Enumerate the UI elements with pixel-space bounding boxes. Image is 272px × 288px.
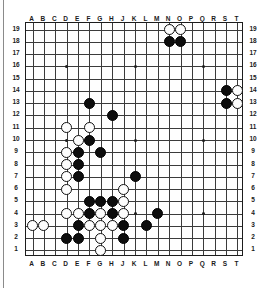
- row-label-right-19: 19: [247, 25, 259, 33]
- white-stone[interactable]: [107, 220, 118, 231]
- white-stone[interactable]: [61, 208, 72, 219]
- row-label-right-2: 2: [247, 233, 259, 241]
- column-label-top-L: L: [139, 15, 151, 23]
- grid-line-horizontal: [26, 165, 242, 166]
- grid-line-vertical: [215, 23, 216, 255]
- black-stone[interactable]: [107, 196, 118, 207]
- row-label-left-5: 5: [10, 196, 22, 204]
- row-label-right-11: 11: [247, 123, 259, 131]
- black-stone[interactable]: [73, 220, 84, 231]
- white-stone[interactable]: [118, 208, 129, 219]
- grid-line-horizontal: [26, 128, 242, 129]
- white-stone[interactable]: [232, 85, 243, 96]
- black-stone[interactable]: [221, 98, 232, 109]
- white-stone[interactable]: [95, 245, 106, 256]
- row-label-left-1: 1: [10, 245, 22, 253]
- black-stone[interactable]: [118, 233, 129, 244]
- column-label-top-N: N: [162, 15, 174, 23]
- black-stone[interactable]: [141, 220, 152, 231]
- black-stone[interactable]: [152, 208, 163, 219]
- column-label-bottom-F: F: [82, 260, 94, 268]
- white-stone[interactable]: [73, 135, 84, 146]
- row-label-left-4: 4: [10, 209, 22, 217]
- star-point: [134, 139, 137, 142]
- go-diagram: AABBCCDDEEFFGGHHJJKKLLMMNNOOPPQQRRSSTT19…: [4, 2, 270, 286]
- column-label-bottom-H: H: [105, 260, 117, 268]
- black-stone[interactable]: [130, 171, 141, 182]
- white-stone[interactable]: [232, 98, 243, 109]
- column-label-bottom-R: R: [208, 260, 220, 268]
- white-stone[interactable]: [38, 220, 49, 231]
- row-label-left-13: 13: [10, 98, 22, 106]
- row-label-right-1: 1: [247, 245, 259, 253]
- black-stone[interactable]: [84, 135, 95, 146]
- black-stone[interactable]: [73, 171, 84, 182]
- row-label-right-3: 3: [247, 221, 259, 229]
- grid-line-horizontal: [26, 30, 242, 31]
- star-point: [134, 212, 137, 215]
- black-stone[interactable]: [107, 208, 118, 219]
- black-stone[interactable]: [95, 196, 106, 207]
- white-stone[interactable]: [95, 233, 106, 244]
- column-label-bottom-S: S: [219, 260, 231, 268]
- black-stone[interactable]: [73, 159, 84, 170]
- column-label-bottom-J: J: [117, 260, 129, 268]
- column-label-bottom-E: E: [71, 260, 83, 268]
- black-stone[interactable]: [95, 147, 106, 158]
- grid-line-vertical: [169, 23, 170, 255]
- white-stone[interactable]: [73, 208, 84, 219]
- row-label-left-17: 17: [10, 49, 22, 57]
- white-stone[interactable]: [61, 171, 72, 182]
- black-stone[interactable]: [164, 36, 175, 47]
- black-stone[interactable]: [221, 85, 232, 96]
- black-stone[interactable]: [175, 36, 186, 47]
- black-stone[interactable]: [61, 233, 72, 244]
- white-stone[interactable]: [61, 184, 72, 195]
- column-label-bottom-M: M: [151, 260, 163, 268]
- row-label-left-14: 14: [10, 86, 22, 94]
- grid-line-horizontal: [26, 189, 242, 190]
- column-label-top-O: O: [174, 15, 186, 23]
- black-stone[interactable]: [84, 98, 95, 109]
- grid-line-vertical: [181, 23, 182, 255]
- column-label-bottom-O: O: [174, 260, 186, 268]
- row-label-right-13: 13: [247, 98, 259, 106]
- star-point: [202, 139, 205, 142]
- column-label-top-Q: Q: [196, 15, 208, 23]
- white-stone[interactable]: [164, 24, 175, 35]
- white-stone[interactable]: [95, 208, 106, 219]
- column-label-top-K: K: [128, 15, 140, 23]
- black-stone[interactable]: [107, 110, 118, 121]
- white-stone[interactable]: [95, 220, 106, 231]
- white-stone[interactable]: [118, 184, 129, 195]
- black-stone[interactable]: [73, 233, 84, 244]
- white-stone[interactable]: [61, 147, 72, 158]
- grid-line-horizontal: [26, 91, 242, 92]
- row-label-left-19: 19: [10, 25, 22, 33]
- go-board[interactable]: [25, 22, 243, 256]
- black-stone[interactable]: [73, 147, 84, 158]
- column-label-top-B: B: [37, 15, 49, 23]
- column-label-top-P: P: [185, 15, 197, 23]
- row-label-left-6: 6: [10, 184, 22, 192]
- black-stone[interactable]: [118, 220, 129, 231]
- column-label-bottom-B: B: [37, 260, 49, 268]
- grid-line-vertical: [158, 23, 159, 255]
- star-point: [134, 65, 137, 68]
- white-stone[interactable]: [61, 122, 72, 133]
- column-label-top-D: D: [60, 15, 72, 23]
- screenshot-root: AABBCCDDEEFFGGHHJJKKLLMMNNOOPPQQRRSSTT19…: [0, 0, 272, 288]
- white-stone[interactable]: [61, 159, 72, 170]
- row-label-left-9: 9: [10, 147, 22, 155]
- black-stone[interactable]: [84, 196, 95, 207]
- white-stone[interactable]: [27, 220, 38, 231]
- white-stone[interactable]: [118, 196, 129, 207]
- grid-line-horizontal: [26, 201, 242, 202]
- white-stone[interactable]: [175, 24, 186, 35]
- white-stone[interactable]: [84, 122, 95, 133]
- grid-line-vertical: [237, 23, 238, 255]
- grid-line-horizontal: [26, 103, 242, 104]
- white-stone[interactable]: [84, 220, 95, 231]
- column-label-top-C: C: [48, 15, 60, 23]
- black-stone[interactable]: [84, 208, 95, 219]
